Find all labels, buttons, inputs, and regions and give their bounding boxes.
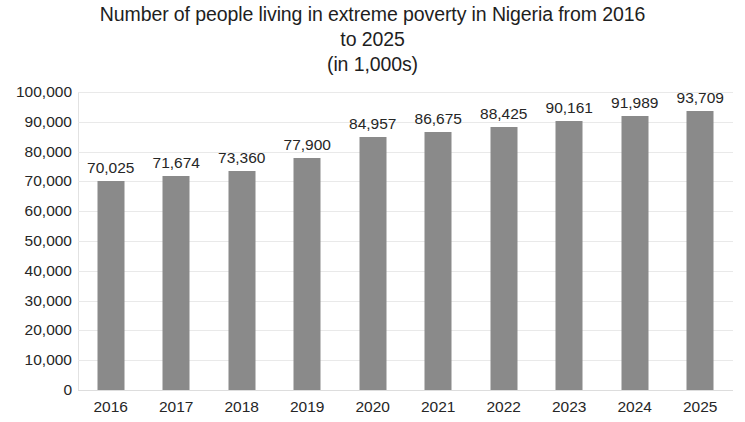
- x-axis-tick-label-2023: 2023: [537, 396, 603, 418]
- bar-value-label-2024: 91,989: [611, 94, 658, 112]
- bar-value-label-2021: 86,675: [415, 110, 462, 128]
- bar-slot: 71,674: [144, 92, 210, 390]
- bar-slot: 73,360: [209, 92, 275, 390]
- y-axis-tick-label: 70,000: [0, 172, 72, 190]
- bar-2025[interactable]: [687, 111, 714, 390]
- y-axis-tick-label: 0: [0, 381, 72, 399]
- bar-value-label-2022: 88,425: [480, 105, 527, 123]
- x-axis-tick-label-2022: 2022: [471, 396, 537, 418]
- bar-slot: 86,675: [406, 92, 472, 390]
- bar-value-label-2017: 71,674: [153, 154, 200, 172]
- bar-chart: Number of people living in extreme pover…: [0, 0, 745, 422]
- bar-2023[interactable]: [556, 121, 583, 390]
- bar-2022[interactable]: [490, 127, 517, 391]
- bar-slot: 84,957: [340, 92, 406, 390]
- bar-value-label-2019: 77,900: [284, 136, 331, 154]
- bar-slot: 90,161: [537, 92, 603, 390]
- bar-2018[interactable]: [228, 171, 255, 390]
- bar-value-label-2018: 73,360: [218, 149, 265, 167]
- bar-slot: 88,425: [471, 92, 537, 390]
- x-axis-tick-label-2021: 2021: [406, 396, 472, 418]
- bar-slot: 77,900: [275, 92, 341, 390]
- gridline-0: [78, 390, 733, 391]
- bar-value-label-2020: 84,957: [349, 115, 396, 133]
- y-axis-tick-label: 40,000: [0, 262, 72, 280]
- y-axis-tick-label: 90,000: [0, 113, 72, 131]
- y-axis-tick-label: 60,000: [0, 202, 72, 220]
- x-axis-tick-label-2020: 2020: [340, 396, 406, 418]
- bar-value-label-2023: 90,161: [546, 99, 593, 117]
- chart-subtitle: (in 1,000s): [0, 52, 745, 77]
- bar-slot: 91,989: [602, 92, 668, 390]
- bar-value-label-2025: 93,709: [677, 89, 724, 107]
- x-axis-tick-label-2016: 2016: [78, 396, 144, 418]
- x-axis-tick-label-2025: 2025: [668, 396, 734, 418]
- y-axis-tick-label: 30,000: [0, 292, 72, 310]
- bar-2021[interactable]: [425, 132, 452, 390]
- x-axis-tick-label-2018: 2018: [209, 396, 275, 418]
- y-axis-tick-label: 10,000: [0, 351, 72, 369]
- x-axis: 2016201720182019202020212022202320242025: [78, 396, 733, 422]
- y-axis-tick-label: 20,000: [0, 321, 72, 339]
- y-axis: 010,00020,00030,00040,00050,00060,00070,…: [0, 92, 72, 390]
- bar-2019[interactable]: [294, 158, 321, 390]
- x-axis-tick-label-2024: 2024: [602, 396, 668, 418]
- bar-slot: 70,025: [78, 92, 144, 390]
- plot-area: 70,02571,67473,36077,90084,95786,67588,4…: [78, 92, 733, 390]
- bar-value-label-2016: 70,025: [87, 159, 134, 177]
- x-axis-tick-label-2019: 2019: [275, 396, 341, 418]
- bar-slot: 93,709: [668, 92, 734, 390]
- x-axis-tick-label-2017: 2017: [144, 396, 210, 418]
- chart-title: Number of people living in extreme pover…: [0, 2, 745, 77]
- y-axis-tick-label: 50,000: [0, 232, 72, 250]
- y-axis-tick-label: 80,000: [0, 143, 72, 161]
- chart-title-line-1: Number of people living in extreme pover…: [0, 2, 745, 27]
- bar-2020[interactable]: [359, 137, 386, 390]
- chart-title-line-2: to 2025: [0, 27, 745, 52]
- y-axis-tick-label: 100,000: [0, 83, 72, 101]
- bar-2016[interactable]: [97, 181, 124, 390]
- bar-2024[interactable]: [621, 116, 648, 390]
- bar-2017[interactable]: [163, 176, 190, 390]
